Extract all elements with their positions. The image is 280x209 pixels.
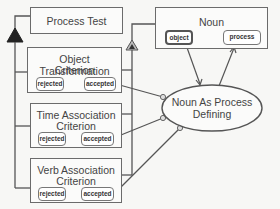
accepted-state[interactable]: accepted xyxy=(84,77,116,91)
inheritance-triangle-icon xyxy=(7,28,23,42)
process-test-title: Process Test xyxy=(31,15,122,27)
criterion-title-line2: Criterion xyxy=(31,120,121,132)
ellipse-label-line1: Noun As Process xyxy=(162,96,262,108)
rejected-state[interactable]: rejected xyxy=(36,77,64,91)
object-transformation-criterion-box[interactable]: Object Transformation Criterion rejected… xyxy=(27,47,122,93)
criterion-title-line2: Criterion xyxy=(28,64,121,76)
process-test-box[interactable]: Process Test xyxy=(30,7,123,34)
time-association-criterion-box[interactable]: Time Association Criterion rejected acce… xyxy=(30,103,122,148)
rejected-state[interactable]: rejected xyxy=(38,187,66,201)
object-state[interactable]: object xyxy=(165,30,193,45)
ellipse-label-line2: Defining xyxy=(162,108,262,120)
rejected-state[interactable]: rejected xyxy=(38,132,66,146)
accepted-state[interactable]: accepted xyxy=(81,187,114,201)
process-state[interactable]: process xyxy=(223,30,261,45)
noun-title: Noun xyxy=(156,16,267,28)
criterion-title-line2: Criterion xyxy=(31,175,121,187)
noun-box[interactable]: Noun object process xyxy=(155,7,268,49)
verb-association-criterion-box[interactable]: Verb Association Criterion rejected acce… xyxy=(30,158,122,203)
accepted-state[interactable]: accepted xyxy=(81,132,114,146)
